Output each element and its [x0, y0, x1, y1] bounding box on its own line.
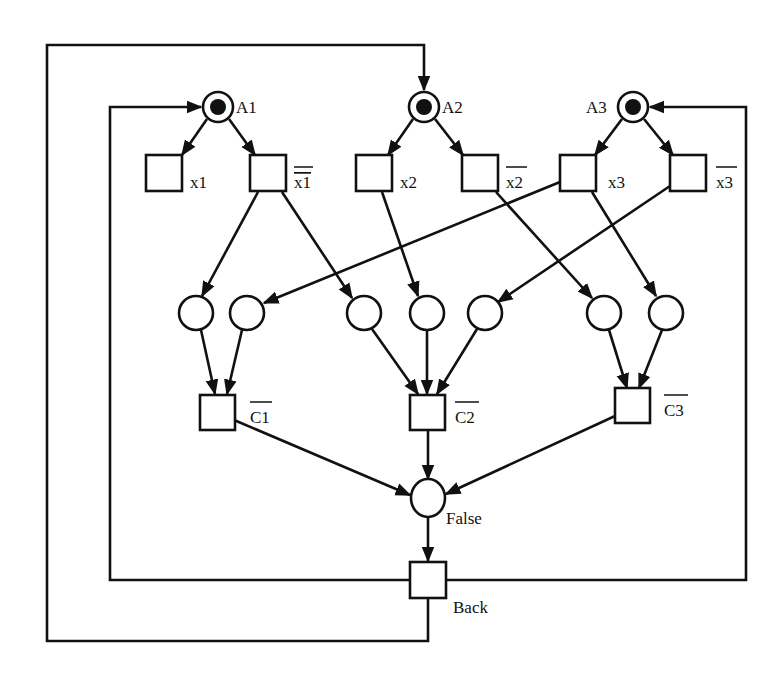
label-not-c2: C2: [455, 408, 475, 427]
arc-p1-nc1: [201, 330, 215, 394]
arc-nc1-false: [234, 420, 410, 495]
arc-a2-x2: [388, 119, 413, 155]
label-not-c1: C1: [250, 408, 270, 427]
arc-nx1-p1: [202, 192, 258, 296]
arc-x3-p2: [264, 182, 560, 303]
arc-nx2-p6: [496, 192, 592, 298]
arc-a3-nx3: [644, 119, 673, 155]
label-x1: x1: [190, 173, 207, 192]
transition-not-x1[interactable]: [250, 155, 286, 191]
label-x3: x3: [608, 173, 625, 192]
label-not-c3: C3: [664, 401, 684, 420]
token-a1-icon: [210, 99, 226, 115]
label-a1: A1: [236, 98, 257, 117]
arc-p6-nc3: [609, 330, 627, 388]
transition-x2[interactable]: [356, 155, 392, 191]
transition-x1[interactable]: [146, 155, 182, 191]
label-false: False: [446, 509, 482, 528]
arc-x2-p4: [382, 192, 418, 296]
token-a2-icon: [416, 99, 432, 115]
arc-nc3-false: [446, 416, 615, 494]
place-p5[interactable]: [468, 296, 502, 330]
label-back: Back: [453, 598, 488, 617]
label-a3: A3: [586, 98, 607, 117]
arc-p7-nc3: [639, 330, 662, 388]
arc-x3-p7: [592, 192, 656, 296]
arc-a2-nx2: [435, 119, 463, 155]
transition-not-x2[interactable]: [462, 155, 498, 191]
arc-a1-x1: [182, 119, 207, 155]
arc-p3-nc2: [372, 329, 418, 394]
place-p3[interactable]: [347, 296, 381, 330]
place-p1[interactable]: [179, 296, 213, 330]
petri-net-diagram: A1 A2 A3 x1 x1 x2 x2 x3 x3 C1 C2 C3 Fals…: [0, 0, 784, 680]
place-false[interactable]: [411, 479, 445, 517]
place-p6[interactable]: [587, 296, 621, 330]
label-not-x3: x3: [716, 173, 733, 192]
place-p7[interactable]: [649, 296, 683, 330]
place-p2[interactable]: [230, 296, 264, 330]
place-p4[interactable]: [410, 296, 444, 330]
transition-not-c2[interactable]: [410, 395, 445, 430]
arc-nx3-p5: [498, 186, 670, 302]
arc-p5-nc2: [437, 329, 477, 394]
transition-not-x3[interactable]: [670, 155, 706, 191]
arc-a3-x3: [595, 119, 622, 155]
arc-p2-nc1: [227, 330, 242, 394]
label-x2: x2: [400, 173, 417, 192]
label-a2: A2: [442, 98, 463, 117]
transition-x3[interactable]: [560, 155, 596, 191]
transition-back[interactable]: [410, 562, 446, 598]
transition-not-c3[interactable]: [615, 388, 650, 423]
transition-not-c1[interactable]: [200, 395, 235, 430]
arc-a1-nx1: [229, 119, 255, 155]
token-a3-icon: [625, 99, 641, 115]
arc-back-to-a2: [47, 45, 428, 641]
label-not-x2: x2: [506, 173, 523, 192]
label-not-x1: x1: [294, 173, 311, 192]
